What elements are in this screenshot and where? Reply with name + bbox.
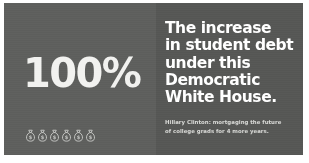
- svg-text:$: $: [89, 134, 93, 140]
- headline-line: in student debt: [165, 37, 295, 54]
- headline-line: under this: [165, 55, 295, 72]
- headline-line: White House.: [165, 89, 295, 106]
- svg-text:$: $: [41, 134, 45, 140]
- caption: Hillary Clinton: mortgaging the future o…: [165, 118, 295, 137]
- headline-line: The increase: [165, 20, 295, 37]
- headline-line: Democratic: [165, 72, 295, 89]
- svg-text:$: $: [29, 134, 33, 140]
- money-bag-icon-row: $ $ $: [25, 129, 96, 142]
- statistic-value: 100%: [23, 53, 155, 93]
- money-bag-icon: $: [37, 129, 48, 142]
- money-bag-icon: $: [25, 129, 36, 142]
- svg-text:$: $: [53, 134, 57, 140]
- caption-line: of college grads for 4 more years.: [165, 127, 295, 136]
- message-panel: The increase in student debt under this …: [155, 3, 303, 155]
- caption-line: Hillary Clinton: mortgaging the future: [165, 118, 295, 127]
- money-bag-icon: $: [61, 129, 72, 142]
- headline: The increase in student debt under this …: [165, 20, 295, 107]
- svg-text:$: $: [77, 134, 81, 140]
- infographic-card: 100% $ $: [0, 0, 309, 163]
- money-bag-icon: $: [73, 129, 84, 142]
- statistic-panel: 100% $ $: [4, 3, 155, 155]
- money-bag-icon: $: [85, 129, 96, 142]
- svg-text:$: $: [65, 134, 69, 140]
- money-bag-icon: $: [49, 129, 60, 142]
